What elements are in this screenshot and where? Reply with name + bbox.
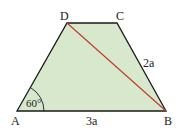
side-label-ab: 3a <box>86 114 98 128</box>
vertex-label-a: A <box>11 114 20 128</box>
side-label-bc: 2a <box>143 56 155 70</box>
vertex-label-d: D <box>60 9 69 23</box>
vertex-label-b: B <box>164 114 172 128</box>
vertex-label-c: C <box>116 9 124 23</box>
angle-label-a: 60° <box>26 97 41 109</box>
trapezoid-diagram: 60° D C A B 3a 2a <box>0 0 180 134</box>
